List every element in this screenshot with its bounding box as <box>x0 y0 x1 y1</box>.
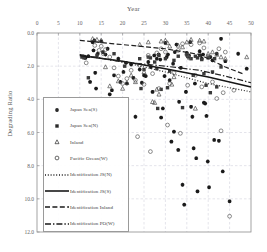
data-point-marker <box>55 156 59 160</box>
data-point-marker <box>202 39 206 43</box>
data-point-marker <box>108 92 112 96</box>
line-dash-dot-icon <box>44 216 70 231</box>
data-point-marker <box>193 82 197 86</box>
data-point-marker <box>122 70 126 74</box>
legend-item-label: Identification Inland <box>70 205 113 210</box>
data-point-marker <box>144 74 148 78</box>
data-point-marker <box>196 189 200 193</box>
data-point-marker <box>163 74 167 78</box>
legend-item-label: Inland <box>70 140 83 145</box>
data-point-marker <box>223 50 227 54</box>
data-point-marker <box>151 90 155 94</box>
legend-item-label: Identification JS(N) <box>70 172 112 177</box>
data-point-marker <box>202 46 206 50</box>
data-point-marker <box>112 73 116 77</box>
data-point-marker <box>55 108 59 112</box>
star-filled-icon <box>44 102 70 117</box>
data-point-marker <box>178 131 182 135</box>
data-point-marker <box>149 150 153 154</box>
data-point-marker <box>112 52 115 55</box>
data-point-marker <box>93 71 97 75</box>
data-point-marker <box>108 55 112 59</box>
data-point-marker <box>200 85 204 89</box>
data-point-marker <box>217 47 221 51</box>
legend-item: Identification JS(N) <box>44 167 130 182</box>
data-point-marker <box>221 91 225 95</box>
chart-legend: Japan Sea(S)Japan Sea(N)InlandPacific Oc… <box>43 97 129 232</box>
data-point-marker <box>110 88 114 92</box>
legend-item-label: Identification PO(W) <box>70 221 115 226</box>
data-point-marker <box>198 41 202 45</box>
data-point-marker <box>206 160 210 164</box>
data-point-marker <box>151 72 155 76</box>
data-point-marker <box>55 124 58 127</box>
line-dashed-icon <box>44 200 70 215</box>
data-point-marker <box>176 148 180 152</box>
data-point-marker <box>219 65 222 68</box>
line-solid-icon <box>44 184 70 199</box>
data-point-marker <box>181 106 184 109</box>
data-point-marker <box>204 84 207 87</box>
data-point-marker <box>87 76 90 79</box>
data-point-marker <box>157 92 161 96</box>
data-point-marker <box>164 57 167 60</box>
data-point-marker <box>103 65 107 69</box>
legend-item: Inland <box>44 135 130 150</box>
data-point-marker <box>200 58 203 61</box>
legend-item: Pacific Ocean(W) <box>44 151 130 166</box>
data-point-marker <box>202 72 205 75</box>
data-point-marker <box>172 59 175 62</box>
legend-item: Identification Inland <box>44 200 130 215</box>
data-point-marker <box>205 114 209 118</box>
data-point-marker <box>209 91 212 94</box>
chart-container: Year Degrading Ratio 0510152025303540455… <box>0 0 267 252</box>
data-point-marker <box>129 68 133 72</box>
data-point-marker <box>219 55 223 59</box>
data-point-marker <box>189 105 193 109</box>
data-point-marker <box>131 76 135 80</box>
triangle-open-icon <box>44 135 70 150</box>
data-point-marker <box>203 102 207 106</box>
data-point-marker <box>123 64 126 67</box>
data-point-marker <box>171 62 175 66</box>
data-point-marker <box>207 185 211 189</box>
data-point-marker <box>236 52 240 56</box>
data-point-marker <box>92 49 96 53</box>
data-point-marker <box>219 129 223 133</box>
data-point-marker <box>129 73 133 77</box>
data-point-marker <box>177 100 181 104</box>
line-dotted-icon <box>44 167 70 182</box>
data-point-marker <box>172 130 176 134</box>
legend-item-label: Japan Sea(N) <box>70 123 98 128</box>
data-point-marker <box>94 87 98 91</box>
data-point-marker <box>146 60 150 64</box>
data-point-marker <box>198 49 202 53</box>
data-point-marker <box>245 67 249 71</box>
data-point-marker <box>159 39 163 43</box>
data-point-marker <box>166 86 169 89</box>
data-point-marker <box>190 115 194 119</box>
data-point-marker <box>193 106 197 110</box>
data-point-marker <box>93 44 97 48</box>
data-point-marker <box>95 54 98 57</box>
data-point-marker <box>169 140 173 144</box>
data-point-marker <box>156 107 159 110</box>
data-point-marker <box>213 57 216 60</box>
data-point-marker <box>108 84 112 88</box>
legend-item-label: Japan Sea(S) <box>70 107 97 112</box>
data-point-marker <box>161 107 165 111</box>
data-point-marker <box>182 203 186 207</box>
data-point-marker <box>116 74 120 78</box>
data-point-marker <box>194 156 198 160</box>
data-point-marker <box>186 83 190 87</box>
data-point-marker <box>158 58 162 62</box>
data-point-marker <box>212 138 216 142</box>
data-point-marker <box>215 97 219 101</box>
data-point-marker <box>138 57 141 60</box>
data-point-marker <box>88 80 92 84</box>
plot-area <box>0 0 267 252</box>
legend-item: Japan Sea(S) <box>44 102 130 117</box>
data-point-marker <box>181 183 185 187</box>
data-point-marker <box>211 80 215 84</box>
data-point-marker <box>138 68 142 72</box>
